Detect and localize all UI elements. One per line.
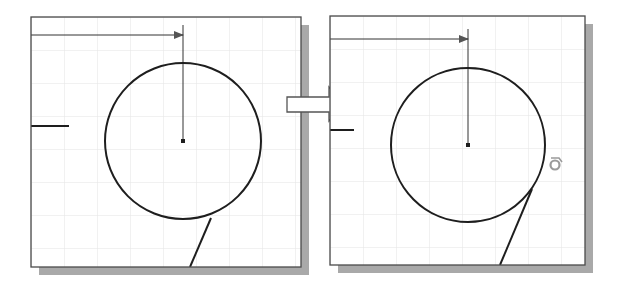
panel-before [31, 17, 309, 275]
grid [330, 16, 585, 265]
cad-before-after-diagram [0, 0, 618, 288]
panel-after [330, 16, 593, 273]
center-point[interactable] [181, 139, 185, 143]
center-point[interactable] [466, 143, 470, 147]
